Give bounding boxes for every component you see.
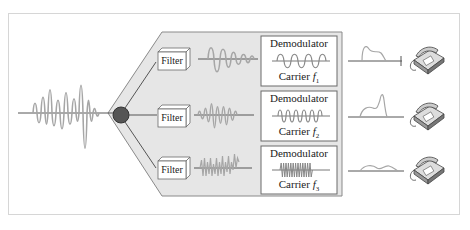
composite-signal-wave [33, 85, 99, 148]
carrier-label-3: Carrier f3 [261, 178, 337, 193]
recovered-signal-1 [362, 47, 386, 61]
filter-label-1: Filter [158, 55, 186, 66]
telephone-icon [410, 157, 444, 184]
demodulator-label-3: Demodulator [261, 147, 337, 159]
demodulator-label-2: Demodulator [261, 92, 337, 104]
demux-diagram [0, 0, 470, 230]
carrier-label-1: Carrier f1 [261, 70, 337, 85]
telephone-icon [410, 103, 444, 130]
carrier-label-2: Carrier f2 [261, 125, 337, 140]
recovered-signal-2 [360, 95, 387, 117]
filter-label-3: Filter [158, 164, 186, 175]
splitter-node [113, 107, 129, 123]
demodulator-label-1: Demodulator [261, 37, 337, 49]
telephone-icon [410, 47, 444, 74]
recovered-signal-3 [360, 166, 398, 171]
filter-label-2: Filter [158, 112, 186, 123]
